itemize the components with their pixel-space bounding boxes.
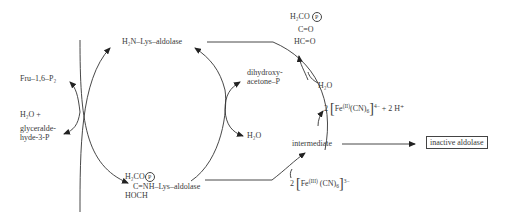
oxidized-product-structure: H₂CO P C=O HC=O [290, 12, 322, 46]
intermediate-label: intermediate [292, 139, 332, 148]
reduced-iron-label: 2 [Fe(II)(CN)6]4− + 2 H⁺ [324, 102, 404, 116]
reduced-coef: 2 [324, 104, 328, 113]
oxprod-line3: HC=O [290, 37, 322, 46]
dhap-line2: acetone–P [247, 77, 283, 86]
reduced-ox: (II) [343, 103, 350, 109]
schiff-line1: H₂CO [125, 172, 145, 181]
schiff-line3: HOCH [125, 191, 148, 200]
reduced-iron-arrow [318, 111, 323, 126]
fru-arrow [70, 82, 80, 112]
water-right-text: H₂O [247, 131, 261, 140]
reduced-extra: + 2 H⁺ [382, 104, 405, 113]
top-line [207, 42, 328, 150]
phosphate-icon: P [145, 172, 155, 182]
dhap-line1: dihydroxy- [247, 68, 283, 77]
oxprod-line2: C=O [290, 25, 322, 34]
water-top-label: H₂O [318, 81, 332, 90]
reduced-charge: 4− [374, 103, 380, 109]
oxidized-fe: Fe [301, 179, 309, 188]
g3p-line2: glyceralde- [20, 124, 56, 133]
oxidized-ligand: (CN) [320, 179, 336, 188]
reaction-arrows [0, 0, 513, 212]
oxidized-charge: 3− [344, 178, 350, 184]
g3p-arrow [64, 112, 80, 134]
inactive-aldolase-text: inactive aldolase [426, 136, 488, 149]
right-arc-arrow [191, 48, 226, 181]
h2o-right-arrow [225, 110, 243, 136]
inactive-aldolase-box: inactive aldolase [426, 138, 488, 147]
g3p-line1: H₂O + [20, 110, 56, 119]
g3p-line3: hyde-3-P [20, 133, 56, 142]
oxidized-iron-label: 2 [Fe(III) (CN)6]3− [290, 177, 350, 191]
top-enzyme-label: H₂N–Lys–aldolase [122, 37, 182, 46]
substrate-text: Fru–1,6–P₂ [20, 74, 56, 83]
left-lower-arc-arrow [80, 40, 128, 183]
reduced-fe: Fe [335, 104, 343, 113]
oxidized-ox: (III) [309, 178, 318, 184]
phosphate-icon: P [312, 12, 322, 22]
g3p-label: H₂O + glyceralde- hyde-3-P [20, 110, 56, 142]
dhap-label: dihydroxy- acetone–P [247, 68, 283, 86]
oxidized-coef: 2 [290, 179, 294, 188]
schiff-line2: NH–Lys–aldolase [143, 182, 200, 191]
water-right-label: H₂O [247, 131, 261, 140]
oxprod-line1: H₂CO [290, 12, 310, 21]
reduced-ligand: (CN) [350, 104, 366, 113]
intermediate-text: intermediate [292, 139, 332, 148]
substrate-label: Fru–1,6–P₂ [20, 74, 56, 83]
top-enzyme-text: H₂N–Lys–aldolase [122, 37, 182, 46]
bottom-line-arrow [205, 153, 305, 180]
schiff-base-structure: H₂COP C=NH–Lys–aldolase HOCH [125, 172, 200, 200]
left-arc-arrow [80, 48, 110, 212]
dhap-arrow [225, 82, 240, 110]
water-top-text: H₂O [318, 81, 332, 90]
